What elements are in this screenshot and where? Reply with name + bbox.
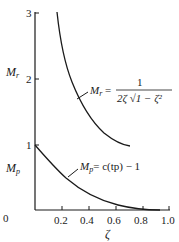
mp-equation: Mp= c(tp) − 1 bbox=[79, 160, 140, 174]
x-tick-label-0.6: 0.6 bbox=[107, 214, 121, 226]
x-tick-label-0.2: 0.2 bbox=[54, 214, 68, 226]
origin-label: 0 bbox=[3, 212, 9, 224]
x-axis-label: ζ bbox=[105, 227, 111, 241]
y-tick-label-1: 1 bbox=[26, 139, 32, 151]
x-tick-label-0.8: 0.8 bbox=[134, 214, 148, 226]
y-tick-label-3: 3 bbox=[26, 7, 32, 19]
x-tick-label-0.4: 0.4 bbox=[80, 214, 94, 226]
mp-curve bbox=[35, 145, 160, 210]
x-tick-label-1.0: 1.0 bbox=[161, 214, 175, 226]
mr-equation-lhs: Mr = bbox=[89, 84, 111, 98]
y-axis-label-mp: Mp bbox=[5, 161, 20, 176]
mr-equation-numerator: 1 bbox=[137, 76, 143, 88]
y-tick-label-2: 2 bbox=[26, 73, 32, 85]
mr-leader-arrow bbox=[77, 92, 88, 99]
mp-leader-arrow bbox=[68, 169, 78, 177]
chart-canvas: 3 2 1 0 0.2 0.4 0.6 0.8 1.0 ζ Mr Mp Mr =… bbox=[0, 0, 179, 242]
mr-curve bbox=[57, 12, 130, 146]
mr-equation-denominator: 2ζ √1 − ζ² bbox=[117, 92, 163, 105]
y-axis-label-mr: Mr bbox=[5, 65, 20, 80]
